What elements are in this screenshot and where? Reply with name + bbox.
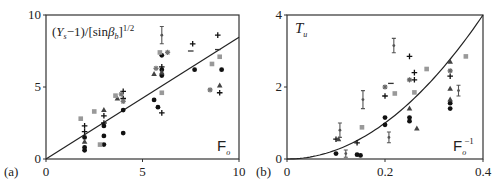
marker-circle xyxy=(121,108,126,113)
y-axis-label: (Ys−1)/[sinβb]1/2 xyxy=(52,23,134,41)
marker-circle xyxy=(334,151,339,156)
x-tick-label: 0.4 xyxy=(475,164,492,179)
panel-b: 00.20.4024(b)TuFo−1 xyxy=(256,7,492,179)
marker-errorbar-center xyxy=(457,89,460,92)
marker-errorbar-center xyxy=(392,44,395,47)
marker-circle xyxy=(102,134,107,139)
x-tick-label: 0 xyxy=(284,164,291,179)
y-axis-label: Tu xyxy=(295,20,307,39)
marker-triangle xyxy=(217,83,223,88)
marker-plus xyxy=(190,41,196,47)
marker-plus xyxy=(447,73,453,79)
marker-square xyxy=(393,91,398,96)
x-tick-label: 0 xyxy=(43,164,50,179)
y-tick-label: 0 xyxy=(35,151,42,166)
y-tick-label: 4 xyxy=(276,7,283,22)
marker-plus xyxy=(215,32,221,38)
marker-circle xyxy=(152,98,157,103)
marker-triangle xyxy=(447,97,453,102)
marker-circle xyxy=(156,105,161,110)
fit-line xyxy=(46,37,239,159)
marker-circle xyxy=(383,115,388,120)
marker-plus xyxy=(412,70,418,76)
marker-plus xyxy=(407,54,413,60)
marker-triangle xyxy=(447,86,453,91)
marker-square xyxy=(217,54,222,59)
marker-star xyxy=(121,99,126,104)
marker-circle xyxy=(219,67,224,72)
panel-a: 05100510(a)(Ys−1)/[sinβb]1/2Fo xyxy=(4,7,246,179)
marker-plus xyxy=(101,113,107,119)
marker-square xyxy=(158,50,163,55)
marker-circle xyxy=(358,153,363,158)
marker-errorbar-center xyxy=(362,98,365,101)
y-tick-label: 5 xyxy=(35,79,42,94)
marker-plus xyxy=(382,93,388,99)
marker-circle xyxy=(407,115,412,120)
marker-square xyxy=(360,125,365,130)
marker-plus xyxy=(217,90,223,96)
marker-star xyxy=(382,84,387,89)
marker-square xyxy=(424,67,429,72)
marker-triangle xyxy=(101,107,107,112)
marker-plus xyxy=(159,110,165,116)
marker-triangle xyxy=(151,71,157,76)
marker-star xyxy=(448,68,453,73)
marker-circle xyxy=(448,106,453,111)
marker-square xyxy=(78,116,83,121)
marker-circle xyxy=(383,122,388,127)
marker-star xyxy=(407,77,412,82)
x-axis-label: Fo xyxy=(217,137,230,157)
marker-circle xyxy=(121,131,126,136)
marker-errorbar-center xyxy=(388,136,391,139)
y-tick-label: 2 xyxy=(276,79,283,94)
marker-errorbar-center xyxy=(160,34,163,37)
x-tick-label: 10 xyxy=(233,164,246,179)
marker-triangle xyxy=(82,139,88,144)
marker-square xyxy=(113,93,118,98)
figure: 05100510(a)(Ys−1)/[sinβb]1/2Fo 00.20.402… xyxy=(0,0,504,186)
y-tick-label: 0 xyxy=(276,151,283,166)
x-tick-label: 5 xyxy=(139,164,146,179)
marker-square xyxy=(464,54,469,59)
marker-star xyxy=(165,50,170,55)
x-axis-label: Fo−1 xyxy=(453,136,474,157)
panel-label: (b) xyxy=(256,164,271,179)
marker-square xyxy=(412,90,417,95)
x-tick-label: 0.2 xyxy=(377,164,393,179)
marker-plus xyxy=(412,77,418,83)
marker-triangle xyxy=(414,125,420,130)
marker-circle xyxy=(192,67,197,72)
marker-errorbar-center xyxy=(344,152,347,155)
marker-star xyxy=(119,92,124,97)
marker-star xyxy=(207,87,212,92)
marker-circle xyxy=(82,145,87,150)
marker-errorbar-center xyxy=(339,129,342,132)
marker-square xyxy=(160,90,165,95)
marker-star xyxy=(153,66,158,71)
panel-label: (a) xyxy=(4,164,18,179)
marker-plus xyxy=(354,140,360,146)
marker-square xyxy=(98,142,103,147)
marker-square xyxy=(210,62,215,67)
y-tick-label: 10 xyxy=(28,7,41,22)
marker-square xyxy=(92,109,97,114)
marker-triangle xyxy=(407,106,413,111)
marker-plus xyxy=(82,123,88,129)
